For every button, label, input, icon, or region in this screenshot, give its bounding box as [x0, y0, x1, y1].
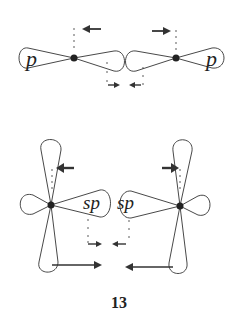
left-inner-lobe	[74, 51, 125, 71]
arrow-right-top	[152, 27, 171, 35]
arrow-left-top	[82, 25, 101, 33]
arrow-inward-right	[129, 82, 141, 88]
left-sp-label: sp	[83, 192, 100, 213]
orbital-diagram: p p	[0, 0, 244, 329]
bottom-spsp-diagram: sp sp	[20, 140, 210, 274]
right-nucleus	[173, 55, 180, 62]
left-p-label: p	[24, 46, 37, 71]
right-inner-lobe	[126, 51, 177, 71]
arrow-sp-inward-right	[112, 241, 126, 247]
right-lower-lobe	[169, 206, 187, 274]
right-p-label: p	[204, 46, 217, 71]
left-nucleus-sp	[48, 202, 55, 209]
top-pp-diagram: p p	[19, 25, 224, 88]
arrow-inward-left	[108, 82, 120, 88]
left-upper-lobe	[41, 140, 61, 206]
right-back-lobe	[180, 195, 210, 215]
figure-number: 13	[111, 294, 127, 311]
left-back-lobe	[20, 194, 51, 214]
right-nucleus-sp	[177, 203, 184, 210]
arrow-long-right	[125, 263, 173, 271]
left-nucleus	[71, 55, 78, 62]
arrow-sp-inward-left	[88, 241, 102, 247]
right-upper-lobe	[173, 140, 192, 206]
arrow-long-left	[52, 261, 102, 269]
left-lower-lobe	[39, 205, 58, 272]
left-sp-lobe	[51, 190, 111, 217]
right-sp-label: sp	[117, 192, 134, 213]
